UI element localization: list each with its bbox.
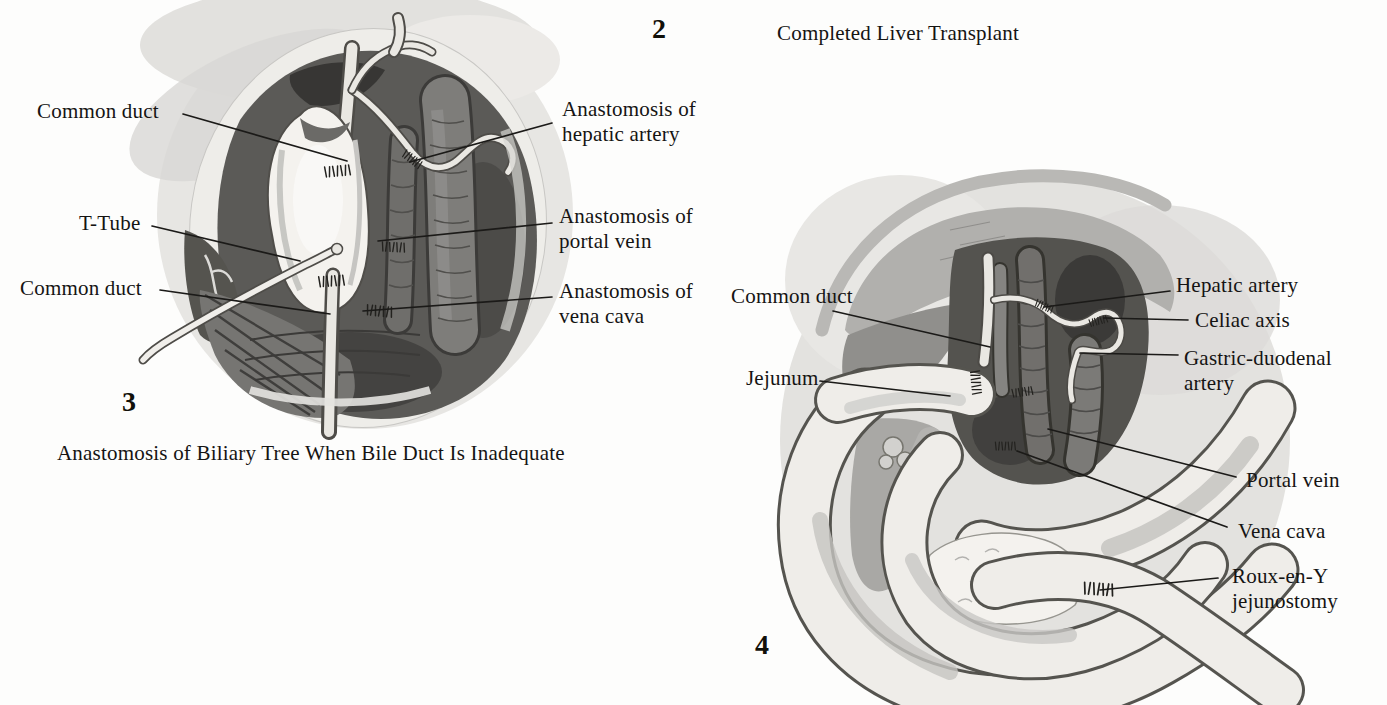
- label-common-duct-upper: Common duct: [37, 99, 159, 124]
- label-jejunum: Jejunum: [746, 366, 819, 391]
- label-celiac-axis: Celiac axis: [1195, 308, 1290, 333]
- label-hepatic-artery: Hepatic artery: [1176, 273, 1298, 298]
- figure3-number: 3: [122, 386, 136, 418]
- label-vena-cava: Vena cava: [1238, 519, 1326, 544]
- figure3-illustration: [108, 0, 573, 451]
- label-anastomosis-portal-vein: Anastomosis of portal vein: [559, 204, 693, 254]
- label-anastomosis-hepatic-artery: Anastomosis of hepatic artery: [562, 97, 696, 147]
- label-anastomosis-vena-cava: Anastomosis of vena cava: [559, 279, 693, 329]
- label-portal-vein: Portal vein: [1246, 468, 1340, 493]
- figure2-caption: Completed Liver Transplant: [777, 21, 1019, 46]
- label-roux-en-y-jejunostomy: Roux-en-Y jejunostomy: [1232, 564, 1338, 614]
- figure2-number: 2: [652, 13, 666, 45]
- figure4-illustration: [780, 175, 1290, 702]
- label-t-tube: T-Tube: [79, 211, 141, 236]
- label-common-duct-lower: Common duct: [20, 276, 142, 301]
- figure3-caption: Anastomosis of Biliary Tree When Bile Du…: [57, 441, 565, 466]
- label-common-duct: Common duct: [731, 284, 853, 309]
- figure4-number: 4: [755, 629, 769, 661]
- label-gastric-duodenal-artery: Gastric-duodenal artery: [1184, 346, 1332, 396]
- atlas-page: { "page": { "type": "medical-atlas-scan"…: [0, 0, 1387, 705]
